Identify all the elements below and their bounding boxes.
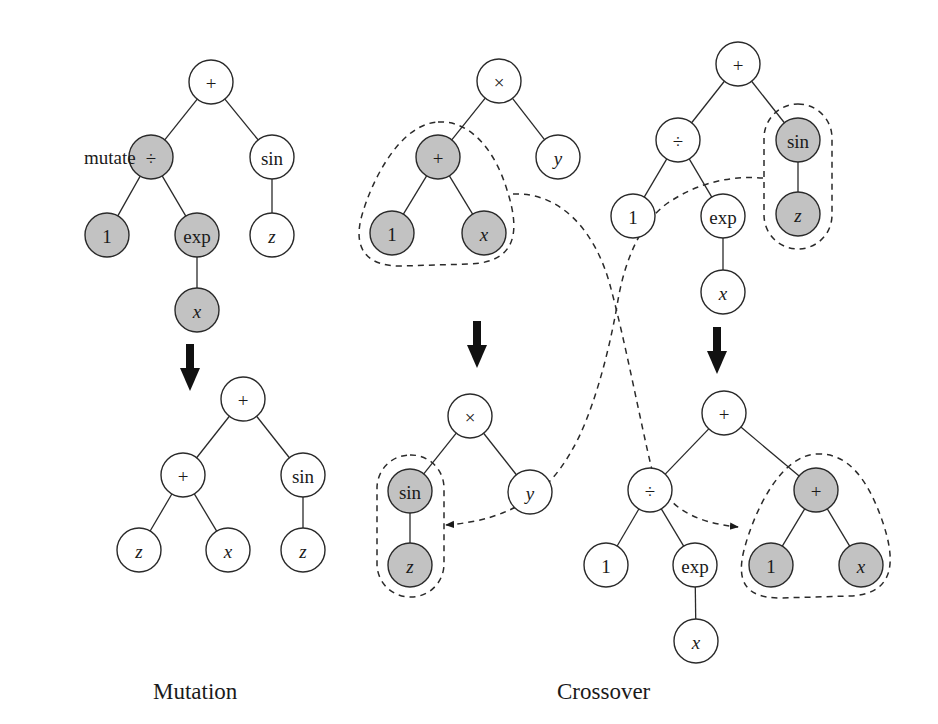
tree-node: sin — [281, 453, 325, 497]
tree-edge — [782, 509, 804, 546]
tree-node: sin — [388, 469, 432, 513]
tree-edge — [741, 427, 799, 476]
tree-node: z — [250, 213, 294, 257]
node-label: exp — [183, 226, 210, 247]
node-label: + — [206, 73, 217, 94]
tree-node: exp — [175, 213, 219, 257]
node-label: + — [238, 390, 249, 411]
tree-node: exp — [673, 543, 717, 587]
tree-edge — [197, 416, 230, 457]
node-label: 1 — [387, 224, 397, 245]
tree-node: + — [161, 453, 205, 497]
tree-node: z — [388, 543, 432, 587]
tree-edge — [617, 509, 639, 546]
tree-node: z — [117, 528, 161, 572]
node-label: + — [719, 404, 730, 425]
tree-node: ÷ — [656, 118, 700, 162]
tree-edge — [452, 98, 485, 140]
node-label: sin — [787, 131, 810, 152]
tree-edge — [118, 176, 140, 216]
node-label: x — [718, 283, 728, 304]
tree-node: sin — [250, 135, 294, 179]
tree-node: x — [175, 288, 219, 332]
tree-edge — [257, 416, 290, 457]
tree-node: x — [701, 270, 745, 314]
genetic-programming-diagram: +÷sin1expzx++sinzxz×+y1x+÷sin1expzx×siny… — [0, 0, 938, 724]
tree-node: z — [281, 528, 325, 572]
down-arrow-icon — [467, 321, 487, 368]
node-label: ÷ — [673, 131, 683, 152]
tree-edge — [449, 176, 472, 214]
down-arrow-icon — [707, 327, 727, 374]
node-label: × — [465, 407, 476, 428]
node-label: y — [524, 483, 535, 504]
node-label: z — [267, 226, 276, 247]
node-label: x — [856, 556, 866, 577]
tree-crossover-child-2: +÷+1exp1xx — [584, 391, 883, 663]
node-label: sin — [399, 482, 422, 503]
tree-edge — [689, 159, 712, 197]
node-label: exp — [681, 556, 708, 577]
tree-edge — [150, 494, 172, 531]
tree-node: x — [206, 528, 250, 572]
tree-edge — [752, 81, 785, 122]
expression-trees: +÷sin1expzx++sinzxz×+y1x+÷sin1expzx×siny… — [85, 42, 883, 663]
tree-crossover-parent-2: +÷sin1expzx — [611, 42, 820, 314]
node-label: 1 — [102, 226, 112, 247]
tree-node: + — [221, 377, 265, 421]
tree-node: + — [189, 60, 233, 104]
tree-node: y — [536, 135, 580, 179]
tree-node: x — [839, 543, 883, 587]
node-label: + — [811, 481, 822, 502]
tree-edge — [424, 433, 457, 474]
mutate-label: mutate — [84, 147, 136, 168]
tree-node: + — [416, 135, 460, 179]
node-label: sin — [261, 148, 284, 169]
tree-node: y — [508, 470, 552, 514]
tree-node: exp — [701, 194, 745, 238]
tree-edge — [165, 99, 198, 140]
node-label: 1 — [766, 556, 776, 577]
tree-node: 1 — [749, 543, 793, 587]
tree-mutation-child: ++sinzxz — [117, 377, 325, 572]
tree-node: sin — [776, 118, 820, 162]
node-label: + — [433, 148, 444, 169]
tree-edge — [512, 98, 544, 139]
caption-crossover: Crossover — [557, 679, 651, 704]
node-label: × — [494, 72, 505, 93]
node-label: exp — [709, 207, 736, 228]
node-label: z — [298, 541, 307, 562]
node-label: x — [479, 224, 489, 245]
tree-edge — [194, 494, 216, 531]
tree-crossover-child-1: ×sinyz — [388, 394, 552, 587]
node-label: x — [192, 301, 202, 322]
tree-node: 1 — [85, 213, 129, 257]
tree-node: 1 — [584, 543, 628, 587]
node-label: z — [793, 205, 802, 226]
tree-node: + — [794, 468, 838, 512]
tree-crossover-parent-1: ×+y1x — [370, 59, 580, 255]
tree-node: × — [448, 394, 492, 438]
node-label: x — [691, 632, 701, 653]
node-label: sin — [292, 466, 315, 487]
node-label: ÷ — [146, 148, 156, 169]
tree-node: 1 — [611, 194, 655, 238]
tree-edge — [484, 433, 517, 474]
tree-node: z — [776, 192, 820, 236]
node-label: y — [552, 148, 563, 169]
tree-edge — [827, 509, 849, 546]
tree-edge — [225, 99, 258, 140]
tree-node: ÷ — [628, 468, 672, 512]
tree-edge — [692, 81, 725, 122]
tree-node: + — [702, 391, 746, 435]
generation-arrows — [180, 321, 727, 391]
tree-node: + — [716, 42, 760, 86]
tree-edge — [661, 509, 683, 546]
tree-edge — [403, 176, 426, 214]
tree-edge — [665, 429, 709, 474]
node-label: + — [733, 55, 744, 76]
tree-node: x — [462, 211, 506, 255]
node-label: 1 — [628, 207, 638, 228]
node-label: z — [405, 556, 414, 577]
node-label: z — [134, 541, 143, 562]
